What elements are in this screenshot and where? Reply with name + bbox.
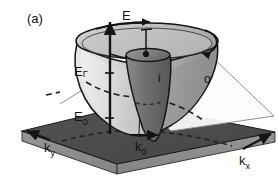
band-structure-figure: (a) E EΓ E0 ky kx k0 i o xyxy=(0,0,278,193)
e-gamma-label: EΓ xyxy=(74,65,88,79)
e-zero-label: E0 xyxy=(74,110,88,127)
spin-axis-head xyxy=(141,29,152,30)
e-gamma-label-sub: Γ xyxy=(83,69,88,79)
kx-label-sub: x xyxy=(246,161,251,171)
ky-axis-label: ky xyxy=(44,141,55,158)
k0-label-sub: 0 xyxy=(142,147,147,157)
panel-label: (a) xyxy=(27,12,43,25)
energy-axis-label: E xyxy=(122,9,131,22)
ky-label-sub: y xyxy=(51,148,56,158)
e-zero-label-base: E xyxy=(74,109,83,124)
e-gamma-label-base: E xyxy=(74,64,83,79)
inner-band-label: i xyxy=(158,72,161,84)
k0-vector-label: k0 xyxy=(135,140,147,157)
plane-intersection-far-left-dashed xyxy=(46,92,60,95)
e-zero-label-sub: 0 xyxy=(83,117,88,127)
kx-axis-label: kx xyxy=(239,154,250,171)
figure-canvas xyxy=(0,0,278,193)
outer-band-label: o xyxy=(204,73,211,85)
